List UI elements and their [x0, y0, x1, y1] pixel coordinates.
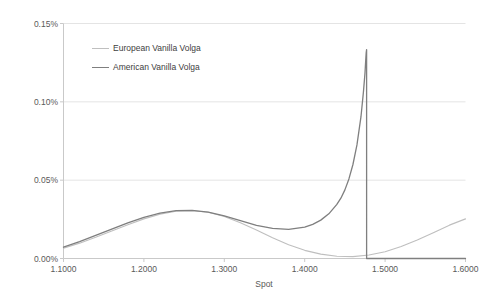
x-tick-label: 1.1000 [51, 264, 77, 274]
legend-item-label: American Vanilla Volga [113, 62, 200, 72]
volga-line-chart: 0.00%0.05%0.10%0.15% 1.10001.20001.30001… [0, 0, 482, 300]
series-line [64, 211, 466, 257]
legend-line-swatch [92, 67, 109, 68]
x-axis-title-label: Spot [255, 279, 273, 289]
x-axis-title: Spot [63, 279, 465, 289]
x-tick-label: 1.4000 [292, 264, 318, 274]
x-tick-label: 1.3000 [211, 264, 237, 274]
legend-item: American Vanilla Volga [92, 62, 201, 72]
legend-item-label: European Vanilla Volga [113, 43, 201, 53]
y-axis-tick-marks [60, 24, 64, 259]
data-series [64, 50, 466, 259]
legend-item: European Vanilla Volga [92, 43, 201, 53]
x-tick-label: 1.2000 [131, 264, 157, 274]
plot-area [0, 0, 482, 300]
y-axis-title: Volga (CCY1%) [14, 0, 28, 300]
series-line [64, 50, 466, 259]
x-tick-label: 1.6000 [453, 264, 479, 274]
x-tick-label: 1.5000 [372, 264, 398, 274]
chart-legend: European Vanilla VolgaAmerican Vanilla V… [92, 43, 201, 72]
legend-line-swatch [92, 48, 109, 49]
